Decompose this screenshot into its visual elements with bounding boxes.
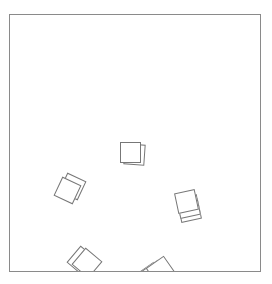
stack-center-card[interactable] bbox=[120, 142, 141, 163]
stack-bottom-center-card[interactable] bbox=[146, 256, 177, 272]
play-area-frame bbox=[9, 14, 261, 272]
stack-right-card[interactable] bbox=[174, 189, 199, 214]
